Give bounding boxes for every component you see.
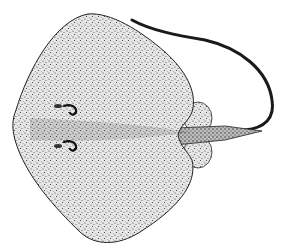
tail-base xyxy=(175,126,262,145)
illustration-canvas xyxy=(0,0,284,252)
spiracle-lower xyxy=(54,144,62,148)
stingray-illustration xyxy=(0,0,284,252)
spiracle-upper xyxy=(54,104,62,108)
